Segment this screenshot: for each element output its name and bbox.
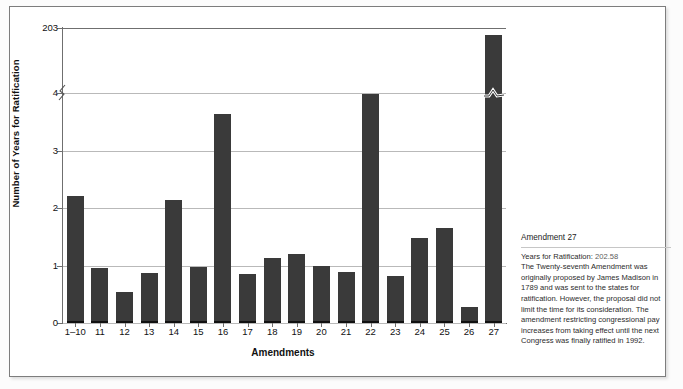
y-tick-label-1: 1 <box>26 260 58 271</box>
bar-22[interactable] <box>362 94 379 323</box>
bar-26[interactable] <box>461 307 478 323</box>
x-axis-title: Amendments <box>63 347 503 358</box>
annotation-value: 202.58 <box>595 252 618 261</box>
y-axis-title: Number of Years for Ratification <box>10 34 21 234</box>
bar-24[interactable] <box>411 238 428 323</box>
y-tick-label-2: 2 <box>26 202 58 213</box>
annotation-body: The Twenty-seventh Amendment was origina… <box>521 262 671 347</box>
annotation-panel: Amendment 27 Years for Ratification: 202… <box>521 233 671 347</box>
bar-axis-break-icon <box>484 86 504 99</box>
bar-18[interactable] <box>264 258 281 323</box>
x-tick-label-27: 27 <box>474 326 514 337</box>
annotation-value-line: Years for Ratification: 202.58 <box>521 252 671 263</box>
bar-series <box>63 28 506 323</box>
y-tick-label-4: 4 <box>26 87 58 98</box>
bar-21[interactable] <box>338 272 355 323</box>
bar-13[interactable] <box>141 273 158 323</box>
bar-14[interactable] <box>165 200 182 323</box>
bar-23[interactable] <box>387 276 404 323</box>
bar-27[interactable] <box>485 35 502 323</box>
bar-16[interactable] <box>214 114 231 323</box>
bar-11[interactable] <box>91 268 108 323</box>
annotation-divider <box>521 247 671 248</box>
bar-20[interactable] <box>313 266 330 323</box>
bar-1–10[interactable] <box>67 196 84 323</box>
chart-page: Number of Years for Ratification Amendme… <box>0 0 683 389</box>
annotation-title: Amendment 27 <box>521 233 671 244</box>
gridline-0 <box>63 323 506 324</box>
bar-25[interactable] <box>436 228 453 323</box>
bar-17[interactable] <box>239 274 256 323</box>
bar-19[interactable] <box>288 254 305 323</box>
y-tick-label-3: 3 <box>26 145 58 156</box>
bar-12[interactable] <box>116 292 133 323</box>
y-tick-label-0: 0 <box>26 317 58 328</box>
annotation-value-label: Years for Ratification: <box>521 252 593 261</box>
y-tick-label-203: 203 <box>26 22 58 33</box>
bar-15[interactable] <box>190 267 207 323</box>
